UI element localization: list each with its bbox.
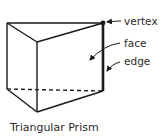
hidden-edge bbox=[7, 89, 103, 91]
edge-label: edge bbox=[124, 55, 150, 67]
vertex-arrow-icon bbox=[107, 21, 121, 22]
prism-shape bbox=[7, 23, 103, 112]
face-label: face bbox=[124, 37, 146, 49]
bottom-front-edge bbox=[37, 91, 103, 112]
top-front-edge bbox=[37, 23, 103, 42]
triangular-prism-diagram: vertex face edge Triangular Prism bbox=[0, 0, 162, 138]
caption: Triangular Prism bbox=[9, 121, 99, 134]
top-left-edge bbox=[7, 23, 37, 42]
edge-arrow-icon bbox=[107, 62, 120, 71]
face-arrow-icon bbox=[90, 43, 120, 60]
bottom-left-edge bbox=[7, 89, 37, 112]
vertex-dot bbox=[101, 21, 106, 26]
vertex-label: vertex bbox=[124, 15, 158, 27]
